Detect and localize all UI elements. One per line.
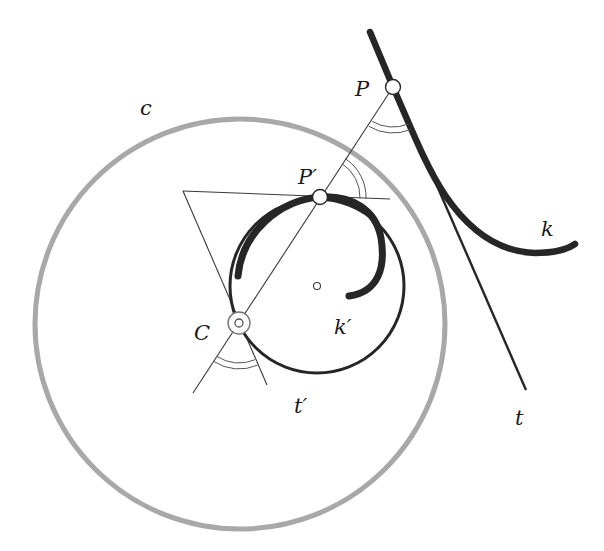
point-p-marker xyxy=(386,80,401,95)
tangent-line-at-p-prime xyxy=(183,191,390,199)
point-p-prime-marker xyxy=(313,190,328,205)
line-through-c xyxy=(183,191,267,385)
angle-arc-p-inner xyxy=(372,121,408,127)
inversion-diagram: c P P′ k k′ C t′ t xyxy=(0,0,604,551)
label-c: c xyxy=(140,96,152,120)
point-c-marker-inner xyxy=(235,319,243,327)
angle-arc-c-inner xyxy=(217,357,255,364)
label-t-prime: t′ xyxy=(294,394,307,418)
label-t: t xyxy=(515,406,524,430)
label-k: k xyxy=(541,217,554,241)
line-p-c xyxy=(193,87,393,393)
label-p-prime: P′ xyxy=(297,165,317,189)
label-k-prime: k′ xyxy=(334,315,352,339)
label-center-c: C xyxy=(194,321,210,345)
center-dot-t-prime xyxy=(314,283,321,290)
angle-arc-p-prime-inner xyxy=(342,164,360,199)
label-p: P xyxy=(354,77,370,101)
